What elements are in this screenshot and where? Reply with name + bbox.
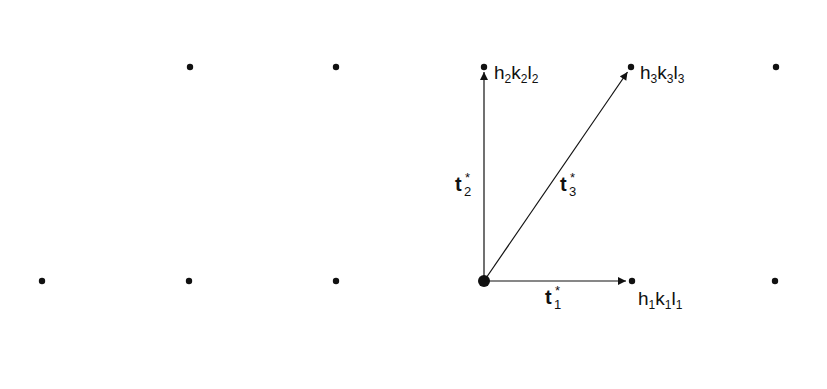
lattice-point-h2k2l2 <box>481 64 487 70</box>
lattice-point <box>333 64 339 70</box>
vector-t3 <box>484 72 628 281</box>
lattice-point-h1k1l1 <box>629 278 635 284</box>
label-t2-star: t * 2 <box>455 174 462 194</box>
label-h3k3l3: h3k3l3 <box>640 63 684 85</box>
lattice-point <box>39 278 45 284</box>
lattice-point <box>187 64 193 70</box>
label-h1k1l1: h1k1l1 <box>638 289 682 311</box>
lattice-point <box>773 64 779 70</box>
lattice-point-h3k3l3 <box>628 64 634 70</box>
lattice-points <box>39 64 779 287</box>
label-h2k2l2: h2k2l2 <box>494 63 538 85</box>
lattice-point <box>333 278 339 284</box>
lattice-diagram <box>0 0 827 389</box>
label-t1-star: t * 1 <box>545 287 552 307</box>
lattice-point <box>772 278 778 284</box>
label-t3-star: t * 3 <box>560 174 567 194</box>
lattice-point <box>186 278 192 284</box>
